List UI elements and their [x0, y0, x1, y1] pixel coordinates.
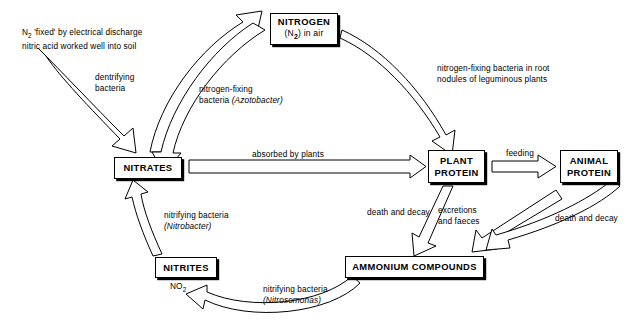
node-nitrates: NITRATES: [114, 157, 182, 179]
label-excretions-and-faeces: excretions and faeces: [438, 205, 480, 228]
label-death-and-decay-plant: death and decay: [367, 207, 430, 218]
label-azotobacter: nitrogen-fixingbacteria (Azotobacter): [199, 84, 283, 107]
node-nitrogen-sublabel: (N2) in air: [284, 28, 323, 42]
node-ammonium-compounds-label: AMMONIUM COMPOUNDS: [352, 261, 477, 273]
node-plant-protein-line1: PLANT: [440, 155, 473, 167]
label-dentrifying-bacteria: dentrifying bacteria: [95, 72, 134, 95]
label-leguminous-root-nodules: nitrogen-fixing bacteria in root nodules…: [437, 63, 550, 86]
node-nitrites: NITRITES: [155, 257, 217, 278]
node-ammonium-compounds: AMMONIUM COMPOUNDS: [345, 256, 484, 278]
node-nitrates-label: NITRATES: [124, 162, 173, 174]
label-death-and-decay-animal: death and decay: [555, 213, 618, 224]
node-animal-protein-line2: PROTEIN: [567, 167, 611, 179]
node-nitrogen-label: NITROGEN: [278, 16, 330, 28]
node-animal-protein-line1: ANIMAL: [570, 155, 609, 167]
arrow-nitrites-to-nitrates: [125, 180, 162, 256]
arrow-nitrogen-to-plant-protein: [340, 30, 455, 155]
node-animal-protein: ANIMAL PROTEIN: [560, 150, 618, 183]
label-electrical-discharge: N2 'fixed' by electrical dischargenitric…: [22, 27, 142, 52]
label-nitrite-formula: NO2: [170, 281, 186, 295]
label-absorbed-by-plants: absorbed by plants: [252, 149, 324, 160]
node-nitrites-label: NITRITES: [163, 262, 209, 274]
label-feeding: feeding: [506, 148, 534, 159]
node-plant-protein: PLANT PROTEIN: [428, 150, 485, 183]
nitrogen-cycle-diagram: NITROGEN (N2) in air NITRATES PLANT PROT…: [0, 0, 641, 334]
node-nitrogen: NITROGEN (N2) in air: [270, 13, 338, 45]
label-nitrosomonas: nitrifying bacteria(Nitrosomonas): [263, 284, 328, 307]
arrow-discharge-to-nitrates: [38, 48, 136, 153]
label-nitrobacter: nitrifying bacteria(Nitrobacter): [164, 210, 229, 233]
node-plant-protein-line2: PROTEIN: [434, 167, 478, 179]
